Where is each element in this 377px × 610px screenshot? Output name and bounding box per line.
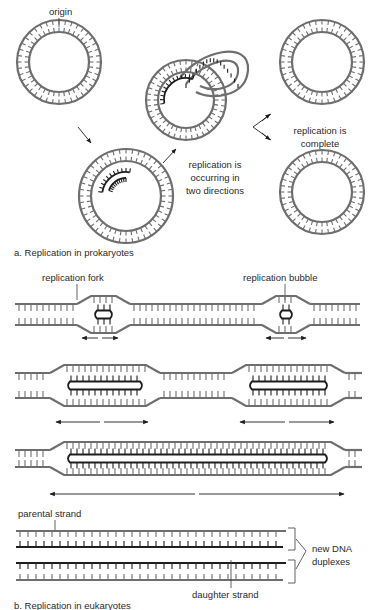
label-replication-fork: replication fork [42,272,104,283]
dna-row-merged-bubble [15,442,362,494]
plasmid-origin [17,20,101,104]
dna-new-duplexes [16,531,286,580]
label-parental-strand: parental strand [18,508,81,519]
dna-row-two-large-bubbles [15,365,362,422]
label-replication-bubble: replication bubble [243,272,317,283]
panel-a-prokaryotes: origin replication is occurring in two d… [14,6,364,258]
label-daughter-strand: daughter strand [192,589,259,600]
label-new-dna-1: new DNA [312,543,353,554]
label-occurring-2: occurring in [190,172,239,183]
plasmid-replicating-early [79,149,173,243]
label-occurring-1: replication is [189,159,242,170]
label-complete-2: complete [301,138,340,149]
label-complete-1: replication is [294,125,347,136]
arrow-step2 [163,149,176,163]
label-occurring-3: two directions [186,185,244,196]
plasmid-daughter-bottom [280,150,364,234]
dna-replication-diagram: origin replication is occurring in two d… [0,0,377,610]
panel-b-eukaryotes: replication fork replication bubble pare… [14,272,362,610]
dna-row-two-small-bubbles [15,296,360,338]
duplex-brackets [288,528,306,583]
plasmid-theta-structure [146,52,248,140]
plasmid-daughter-top [280,20,364,104]
label-origin: origin [49,6,72,17]
caption-panel-b: b. Replication in eukaryotes [14,600,131,610]
arrow-step1 [78,127,91,143]
split-arrows [253,114,271,140]
label-new-dna-2: duplexes [312,556,350,567]
caption-panel-a: a. Replication in prokaryotes [14,247,134,258]
